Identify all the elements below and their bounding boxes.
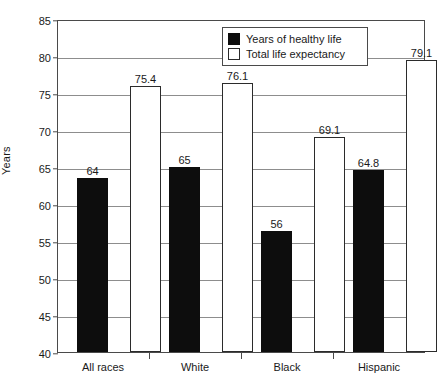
legend-item-label: Years of healthy life	[246, 33, 342, 45]
bar-light: 69.1	[314, 137, 345, 352]
y-tick-mark	[53, 279, 58, 280]
y-axis-title: Years	[0, 95, 20, 175]
bar-value-label: 65	[178, 154, 190, 166]
y-tick-mark	[53, 205, 58, 206]
y-tick-mark	[53, 242, 58, 243]
bar-value-label: 79.1	[411, 47, 432, 59]
group-separator-tick	[333, 353, 334, 359]
bar-dark: 64	[77, 178, 108, 352]
bar-chart: Years 40455055606570758085 6475.46576.15…	[0, 0, 443, 386]
bar-light: 75.4	[130, 86, 161, 352]
bar-light: 79.1	[406, 60, 437, 352]
x-axis-label: Black	[274, 361, 301, 373]
bar-value-label: 64	[86, 165, 98, 177]
x-axis-label: All races	[82, 361, 124, 373]
bar-dark: 64.8	[353, 170, 384, 352]
x-axis-label: Hispanic	[358, 361, 400, 373]
group-separator-tick	[241, 353, 242, 359]
bar-value-label: 76.1	[227, 70, 248, 82]
y-tick-mark	[53, 20, 58, 21]
chart-legend: Years of healthy life Total life expecta…	[222, 27, 368, 66]
y-tick-mark	[53, 353, 58, 354]
bar-dark: 56	[261, 231, 292, 352]
bar-value-label: 75.4	[135, 73, 156, 85]
legend-item-label: Total life expectancy	[246, 48, 345, 60]
y-tick-mark	[53, 131, 58, 132]
group-separator-tick	[149, 353, 150, 359]
plot-area: 40455055606570758085 6475.46576.15669.16…	[57, 20, 425, 353]
bar-light: 76.1	[222, 83, 253, 352]
bar-value-label: 64.8	[358, 157, 379, 169]
bar-value-label: 69.1	[319, 124, 340, 136]
legend-swatch-dark-icon	[228, 33, 240, 45]
legend-item: Total life expectancy	[228, 46, 362, 61]
y-tick-mark	[53, 316, 58, 317]
y-tick-mark	[53, 57, 58, 58]
y-tick-mark	[53, 168, 58, 169]
legend-item: Years of healthy life	[228, 31, 362, 46]
y-tick-mark	[53, 94, 58, 95]
legend-swatch-light-icon	[228, 48, 240, 60]
x-axis-label: White	[181, 361, 209, 373]
bar-dark: 65	[169, 167, 200, 352]
bar-value-label: 56	[270, 218, 282, 230]
